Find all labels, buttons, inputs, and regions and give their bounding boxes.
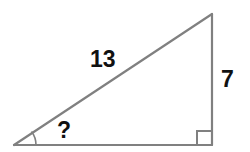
angle-arc-icon <box>32 132 37 146</box>
unknown-angle-label: ? <box>57 119 71 142</box>
triangle-diagram-svg <box>0 0 250 152</box>
right-angle-marker-icon <box>197 131 211 145</box>
triangle-figure: 13 7 ? <box>0 0 250 152</box>
hypotenuse-line <box>14 14 212 145</box>
hypotenuse-length-label: 13 <box>90 48 116 71</box>
vertical-leg-length-label: 7 <box>221 68 234 91</box>
